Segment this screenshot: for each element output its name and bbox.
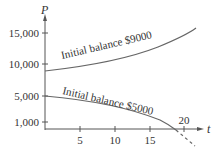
- series-9000-label: Initial balance $9000: [60, 28, 154, 61]
- x-tick-label: 15: [145, 134, 157, 146]
- x-ticks: 5 10 15 20: [77, 114, 190, 146]
- y-tick-label: 15,000: [9, 27, 40, 39]
- x-tick-label: 20: [179, 114, 191, 126]
- y-tick-label: 5,000: [14, 90, 39, 102]
- x-axis-label: t: [207, 122, 211, 136]
- y-tick-label: 10,000: [9, 58, 40, 70]
- series-5000-dashed-continuation: [176, 130, 195, 146]
- x-tick-label: 10: [110, 134, 122, 146]
- x-tick-label: 5: [77, 134, 83, 146]
- y-axis-label: P: [40, 3, 49, 17]
- y-ticks: 15,000 10,000 5,000 1,000: [9, 27, 48, 128]
- y-tick-label: 1,000: [14, 116, 39, 128]
- x-axis-arrow-icon: [197, 127, 204, 131]
- series-5000-label: Initial balance $5000: [62, 84, 156, 117]
- chart: P t 15,000 10,000 5,000 1,000 5 10 15 20…: [0, 0, 215, 151]
